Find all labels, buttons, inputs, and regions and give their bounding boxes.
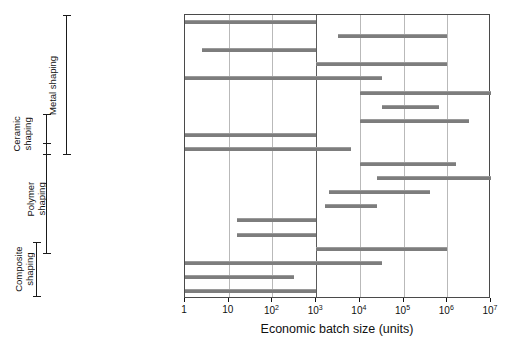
range-bar	[316, 62, 447, 66]
range-bar	[185, 261, 382, 265]
range-bar	[185, 147, 351, 151]
gridline-1e3	[316, 15, 317, 297]
x-tick-label: 107	[482, 304, 497, 316]
x-tick-label: 103	[308, 304, 323, 316]
x-tick	[490, 298, 491, 302]
x-tick-label: 106	[439, 304, 454, 316]
range-bar	[329, 190, 430, 194]
range-bar	[185, 289, 316, 293]
gridline-1e4	[360, 15, 361, 297]
range-bar	[185, 76, 382, 80]
gridline-1e2	[272, 15, 273, 297]
x-tick-label: 104	[351, 304, 366, 316]
range-bar	[360, 119, 469, 123]
x-tick	[359, 298, 360, 302]
process-label-column: Sand castingDie castingInvestment castin…	[0, 0, 184, 350]
range-bar	[185, 20, 316, 24]
range-bar	[325, 204, 377, 208]
x-tick-label: 10	[222, 304, 233, 315]
x-tick-label: 102	[264, 304, 279, 316]
range-bar	[360, 162, 456, 166]
range-bar	[237, 218, 316, 222]
range-bar	[360, 91, 491, 95]
x-tick	[315, 298, 316, 302]
gridline-1e1	[229, 15, 230, 297]
range-bar	[185, 133, 316, 137]
range-bar	[237, 233, 316, 237]
x-tick-label: 1	[181, 304, 187, 315]
x-tick	[271, 298, 272, 302]
range-bar	[382, 105, 439, 109]
range-bar	[316, 247, 447, 251]
plot-area	[184, 14, 490, 298]
x-tick	[446, 298, 447, 302]
x-axis-title: Economic batch size (units)	[261, 322, 414, 336]
gridline-1e5	[404, 15, 405, 297]
x-tick-label: 105	[395, 304, 410, 316]
economic-batch-size-chart: Metal shapingCeramic shapingPolymer shap…	[0, 0, 506, 350]
x-tick	[403, 298, 404, 302]
x-tick	[228, 298, 229, 302]
x-tick	[184, 298, 185, 302]
gridline-1e6	[447, 15, 448, 297]
range-bar	[185, 275, 294, 279]
range-bar	[202, 48, 316, 52]
range-bar	[338, 34, 447, 38]
range-bar	[377, 176, 491, 180]
